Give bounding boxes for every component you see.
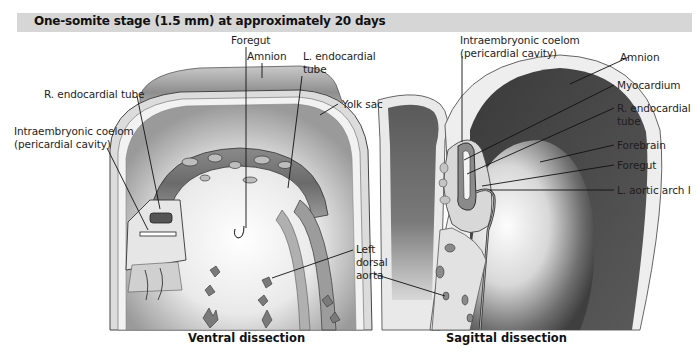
label-ventral-coelom-line2: (pericardial cavity)	[14, 138, 111, 150]
label-ventral-l-endocardial-line1: L. endocardial	[303, 50, 376, 62]
label-sagittal-amnion: Amnion	[620, 51, 659, 63]
label-sagittal-r-endocardial-line1: R. endocardial	[617, 102, 691, 114]
ventral-dissection-drawing	[110, 66, 372, 330]
label-ventral-r-endocardial-tube: R. endocardial tube	[44, 88, 144, 100]
caption-sagittal-dissection: Sagittal dissection	[446, 331, 567, 345]
label-left-dorsal-line3: aorta	[356, 269, 383, 281]
label-sagittal-coelom-line1: Intraembryonic coelom	[460, 34, 580, 46]
label-left-dorsal-line2: dorsal	[356, 256, 388, 268]
label-sagittal-myocardium: Myocardium	[617, 79, 681, 91]
label-ventral-foregut: Foregut	[231, 34, 270, 46]
label-sagittal-forebrain: Forebrain	[617, 139, 666, 151]
label-sagittal-r-endocardial-line2: tube	[617, 115, 641, 127]
label-sagittal-coelom-line2: (pericardial cavity)	[460, 47, 557, 59]
caption-ventral-dissection: Ventral dissection	[188, 331, 305, 345]
label-sagittal-l-aortic-arch: L. aortic arch I	[617, 184, 691, 196]
label-ventral-l-endocardial-line2: tube	[303, 63, 327, 75]
label-ventral-yolk-sac: Yolk sac	[342, 98, 383, 110]
label-ventral-coelom-line1: Intraembryonic coelom	[14, 125, 134, 137]
label-sagittal-foregut: Foregut	[617, 159, 656, 171]
label-ventral-amnion: Amnion	[247, 50, 286, 62]
label-left-dorsal-line1: Left	[356, 243, 375, 255]
